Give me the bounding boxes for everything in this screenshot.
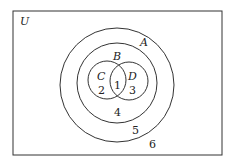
venn-diagram: U A B C D 1 2 3 4 5 6: [0, 0, 233, 164]
region-1-label: 1: [114, 79, 121, 92]
region-5-label: 5: [132, 124, 139, 137]
universe-label: U: [20, 15, 30, 28]
set-a-label: A: [139, 36, 148, 49]
set-d-label: D: [127, 70, 137, 83]
region-3-label: 3: [129, 84, 136, 97]
set-b-label: B: [112, 50, 121, 63]
set-c-label: C: [97, 70, 106, 83]
region-2-label: 2: [98, 84, 105, 97]
region-6-label: 6: [149, 138, 156, 151]
region-4-label: 4: [114, 106, 121, 119]
